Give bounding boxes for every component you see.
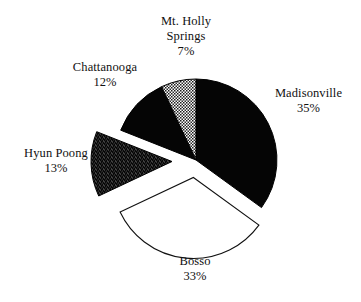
pie-label-madisonville-name: Madisonville [256,86,361,101]
pie-label-madisonville-percent: 35% [256,101,361,116]
pie-chart: Mt. Holly Springs 7% Chattanooga 12% Hyu… [0,0,361,302]
pie-label-mt-holly-springs: Mt. Holly Springs 7% [128,14,244,58]
pie-label-chattanooga-name: Chattanooga [47,60,163,75]
pie-label-madisonville: Madisonville 35% [256,86,361,116]
pie-label-bosso: Bosso 33% [140,254,250,284]
pie-label-hyun-poong-percent: 13% [2,161,110,176]
pie-label-hyun-poong: Hyun Poong 13% [2,146,110,176]
pie-label-bosso-name: Bosso [140,254,250,269]
pie-label-chattanooga-percent: 12% [47,75,163,90]
pie-label-mt-holly-springs-line2: Springs [128,29,244,44]
pie-label-hyun-poong-name: Hyun Poong [2,146,110,161]
pie-label-mt-holly-springs-percent: 7% [128,44,244,59]
pie-label-bosso-percent: 33% [140,269,250,284]
pie-label-chattanooga: Chattanooga 12% [47,60,163,90]
pie-label-mt-holly-springs-line1: Mt. Holly [128,14,244,29]
